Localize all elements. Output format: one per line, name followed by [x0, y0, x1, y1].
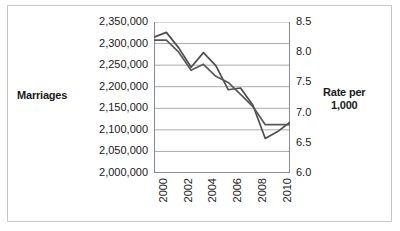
right-axis-tick-label: 8.5: [296, 16, 311, 27]
x-axis-tick-label: 2010: [282, 178, 293, 202]
chart-screenshot: Marriages Rate per 1,000 2,350,0002,300,…: [0, 0, 400, 231]
right-axis-tick-label: 8.0: [296, 46, 311, 57]
x-axis-tick-label: 2002: [183, 178, 194, 202]
left-axis-tick-label: 2,300,000: [99, 38, 148, 49]
left-axis-tick-labels: 2,350,0002,300,0002,250,0002,200,0002,15…: [56, 0, 148, 231]
x-axis-tick-label: 2008: [257, 178, 268, 202]
tick-marks: [154, 22, 290, 173]
left-axis-tick-label: 2,250,000: [99, 59, 148, 70]
left-axis-tick-label: 2,150,000: [99, 102, 148, 113]
x-axis-tick-labels: 200020022004200620082010: [154, 178, 290, 228]
x-axis-tick-label: 2000: [158, 178, 169, 202]
left-axis-tick-label: 2,200,000: [99, 81, 148, 92]
left-axis-tick-label: 2,000,000: [99, 167, 148, 178]
gridlines: [154, 22, 290, 173]
data-series-group: [154, 32, 290, 138]
series-line-rate-per-1-000: [154, 40, 290, 125]
x-axis-tick-label: 2004: [207, 178, 218, 202]
right-axis-tick-label: 7.0: [296, 107, 311, 118]
right-axis-tick-labels: 8.58.07.57.06.56.0: [296, 0, 336, 231]
left-axis-tick-label: 2,100,000: [99, 124, 148, 135]
x-axis-tick-label: 2006: [232, 178, 243, 202]
right-axis-tick-label: 6.0: [296, 167, 311, 178]
plot-area: [154, 22, 290, 173]
left-axis-tick-label: 2,350,000: [99, 16, 148, 27]
right-axis-tick-label: 6.5: [296, 137, 311, 148]
plot-svg: [154, 22, 290, 173]
right-axis-tick-label: 7.5: [296, 76, 311, 87]
axis-lines: [154, 22, 290, 173]
left-axis-tick-label: 2,050,000: [99, 145, 148, 156]
